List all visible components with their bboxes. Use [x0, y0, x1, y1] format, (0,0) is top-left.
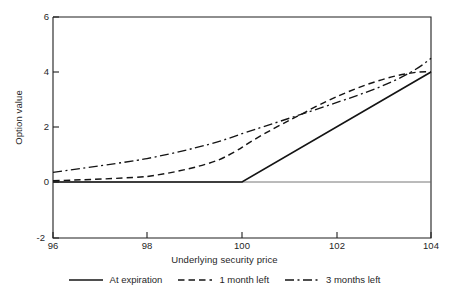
dashdot-line-swatch — [285, 275, 319, 285]
y-tick-label-6: 6 — [23, 11, 49, 22]
axes-frame — [53, 17, 431, 238]
x-tick-label-98: 98 — [127, 240, 167, 251]
legend-label-at-expiration: At expiration — [110, 274, 163, 285]
y-tick-label-0: 0 — [23, 176, 49, 187]
option-value-chart-figure: 6 4 2 0 -2 96 98 100 102 104 Option valu… — [0, 0, 449, 299]
dashed-line-swatch — [178, 275, 212, 285]
x-tick-label-96: 96 — [33, 240, 73, 251]
x-axis-ticks — [53, 232, 431, 238]
x-axis-title: Underlying security price — [0, 254, 449, 265]
series-3-months-left — [53, 58, 431, 172]
x-tick-label-102: 102 — [317, 240, 357, 251]
legend-item-1-month-left: 1 month left — [178, 274, 269, 285]
y-axis-title: Option value — [13, 78, 24, 158]
series-at-expiration — [53, 72, 431, 182]
y-tick-label-4: 4 — [23, 66, 49, 77]
x-tick-label-100: 100 — [222, 240, 262, 251]
chart-legend: At expiration 1 month left 3 months left — [0, 274, 449, 285]
x-tick-label-104: 104 — [411, 240, 449, 251]
y-tick-label-2: 2 — [23, 121, 49, 132]
legend-item-3-months-left: 3 months left — [285, 274, 380, 285]
y-axis-ticks — [53, 17, 59, 238]
legend-label-1-month-left: 1 month left — [219, 274, 269, 285]
legend-item-at-expiration: At expiration — [69, 274, 163, 285]
legend-label-3-months-left: 3 months left — [326, 274, 380, 285]
solid-line-swatch — [69, 275, 103, 285]
